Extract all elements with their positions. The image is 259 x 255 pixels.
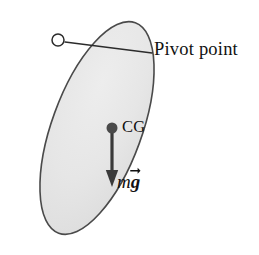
pivot-point-marker (52, 34, 64, 46)
rigid-body-shape (16, 7, 177, 248)
diagram-canvas (0, 0, 259, 255)
center-of-gravity-marker (107, 123, 118, 134)
body-ellipse (16, 7, 177, 248)
pivot-point-diagram: Pivot point CG mg (0, 0, 259, 255)
